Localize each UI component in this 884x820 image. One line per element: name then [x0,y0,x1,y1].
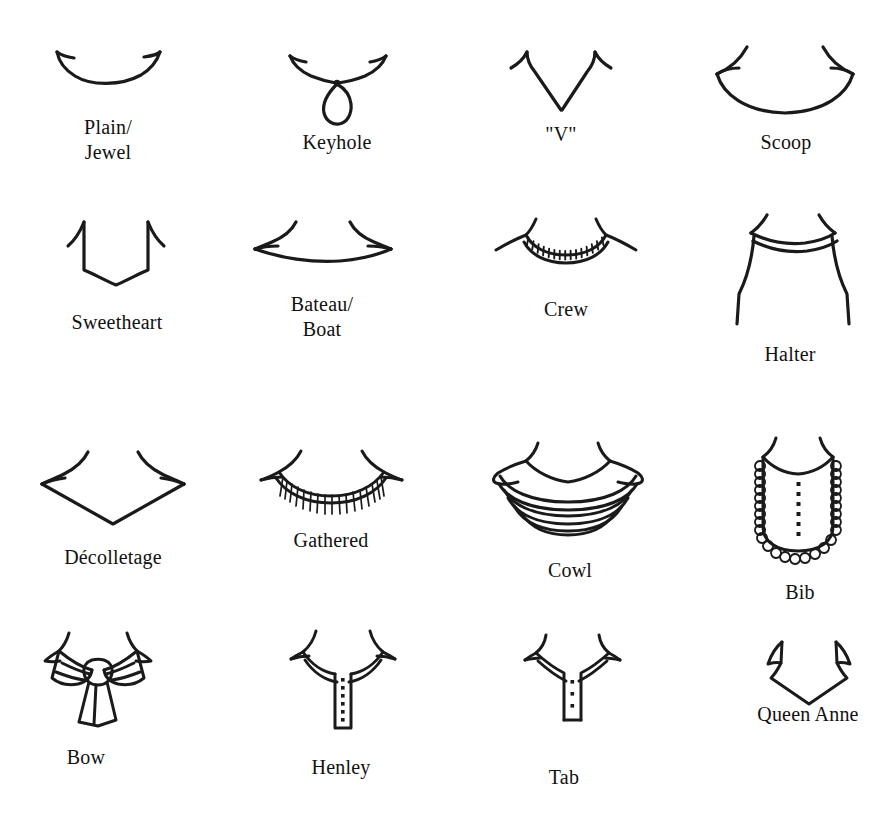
v-neckline-icon [506,48,616,118]
bib-neckline-icon [738,435,858,560]
neckline-label-gathered: Gathered [201,528,461,553]
neckline-label-bateau: Bateau/ Boat [192,292,452,342]
neckline-label-bow: Bow [0,745,216,770]
neckline-label-bib: Bib [670,580,884,605]
neckline-label-cowl: Cowl [440,558,700,583]
scoop-neckline-icon [705,42,865,122]
decolletage-neckline-icon [38,448,188,528]
neckline-label-plain-jewel: Plain/ Jewel [0,115,238,165]
neckline-label-keyhole: Keyhole [207,130,467,155]
neckline-label-tab: Tab [434,765,694,790]
bow-neckline-icon [34,630,169,730]
plain-jewel-neckline-icon [45,48,175,98]
neckline-label-crew: Crew [436,297,696,322]
neckline-label-scoop: Scoop [656,130,884,155]
neckline-label-henley: Henley [211,755,471,780]
sweetheart-neckline-icon [62,218,172,298]
crew-neckline-icon [488,216,643,271]
keyhole-neckline-icon [278,50,398,130]
bateau-neckline-icon [250,218,395,268]
henley-neckline-icon [283,628,403,733]
tab-neckline-icon [520,632,625,727]
halter-neckline-icon [725,212,855,337]
gathered-neckline-icon [256,448,406,518]
neckline-label-halter: Halter [660,342,884,367]
cowl-neckline-icon [486,440,651,545]
queen-anne-neckline-icon [752,638,867,708]
neckline-styles-chart: Plain/ Jewel Keyhole [0,0,884,820]
neckline-label-v: "V" [431,122,691,147]
neckline-label-queen-anne: Queen Anne [678,702,884,727]
